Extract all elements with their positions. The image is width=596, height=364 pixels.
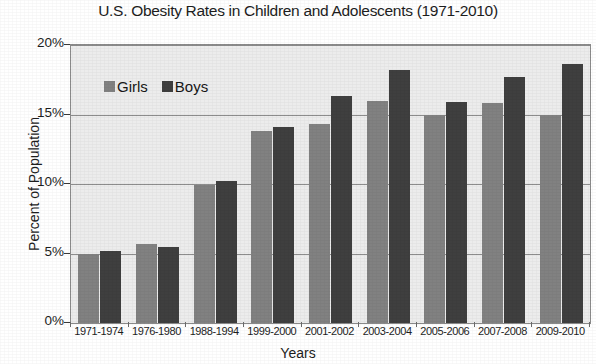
bar-boys-2003-2004 xyxy=(389,70,410,323)
x-tick-label: 1971-1974 xyxy=(69,325,129,337)
bar-girls-1976-1980 xyxy=(136,244,157,323)
gridline xyxy=(71,45,590,46)
x-tick-mark xyxy=(474,322,475,327)
y-tick-label: 5% xyxy=(4,244,64,259)
x-tick-label: 2003-2004 xyxy=(357,325,417,337)
x-tick-mark xyxy=(301,322,302,327)
x-tick-mark xyxy=(128,322,129,327)
x-tick-mark xyxy=(185,322,186,327)
bar-girls-1971-1974 xyxy=(78,254,99,324)
bar-girls-2003-2004 xyxy=(367,101,388,323)
bar-boys-2007-2008 xyxy=(504,77,525,323)
y-tick-mark xyxy=(64,114,70,115)
obesity-rates-bar-chart: U.S. Obesity Rates in Children and Adole… xyxy=(0,0,596,364)
chart-legend: GirlsBoys xyxy=(104,78,208,95)
x-tick-mark xyxy=(358,322,359,327)
legend-item-girls: Girls xyxy=(104,78,148,95)
x-tick-label: 2005-2006 xyxy=(415,325,475,337)
bar-boys-1999-2000 xyxy=(273,127,294,323)
x-tick-label: 2007-2008 xyxy=(473,325,533,337)
bar-girls-1999-2000 xyxy=(251,131,272,323)
bar-girls-2005-2006 xyxy=(424,115,445,324)
bar-girls-1988-1994 xyxy=(194,185,215,323)
y-tick-mark xyxy=(64,253,70,254)
bar-boys-2005-2006 xyxy=(446,102,467,323)
x-tick-label: 2009-2010 xyxy=(530,325,590,337)
y-tick-label: 0% xyxy=(4,313,64,328)
y-tick-label: 20% xyxy=(4,35,64,50)
x-tick-mark xyxy=(243,322,244,327)
y-tick-mark xyxy=(64,183,70,184)
bar-boys-1976-1980 xyxy=(158,247,179,323)
x-tick-label: 1999-2000 xyxy=(242,325,302,337)
x-tick-label: 1988-1994 xyxy=(184,325,244,337)
x-tick-label: 2001-2002 xyxy=(300,325,360,337)
bar-girls-2001-2002 xyxy=(309,124,330,323)
bar-boys-2001-2002 xyxy=(331,96,352,323)
bar-girls-2007-2008 xyxy=(482,103,503,323)
bar-girls-2009-2010 xyxy=(540,115,561,324)
x-tick-mark xyxy=(416,322,417,327)
y-tick-mark xyxy=(64,44,70,45)
x-tick-mark xyxy=(589,322,590,327)
y-tick-label: 15% xyxy=(4,105,64,120)
legend-label: Boys xyxy=(175,78,208,95)
y-tick-label: 10% xyxy=(4,174,64,189)
chart-title: U.S. Obesity Rates in Children and Adole… xyxy=(0,2,596,20)
x-tick-mark xyxy=(70,322,71,327)
bar-boys-2009-2010 xyxy=(562,64,583,323)
x-tick-label: 1976-1980 xyxy=(127,325,187,337)
x-axis-label: Years xyxy=(0,345,596,361)
legend-swatch-boys-icon xyxy=(162,81,173,92)
x-tick-mark xyxy=(531,322,532,327)
legend-label: Girls xyxy=(117,78,148,95)
bar-boys-1988-1994 xyxy=(216,181,237,323)
bar-boys-1971-1974 xyxy=(100,251,121,323)
legend-item-boys: Boys xyxy=(162,78,208,95)
legend-swatch-girls-icon xyxy=(104,81,115,92)
